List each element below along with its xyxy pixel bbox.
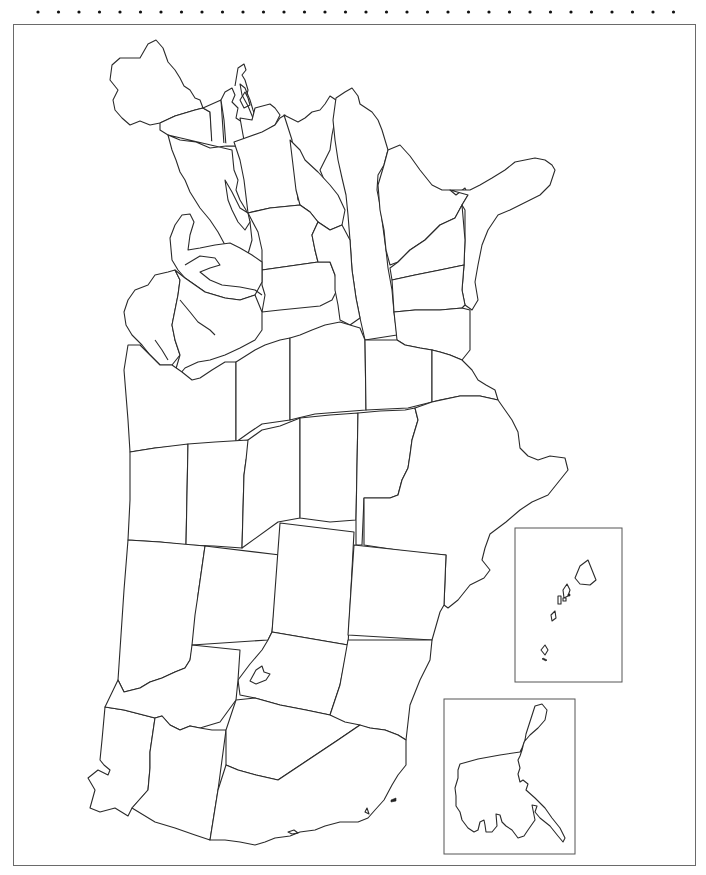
island-outline — [551, 611, 556, 621]
state-outline — [262, 262, 338, 312]
island-outline — [542, 658, 547, 661]
great-lakes-region — [284, 88, 555, 360]
state-outline — [221, 88, 245, 146]
state-outline — [432, 350, 498, 402]
state-outline — [290, 322, 366, 420]
hawaii-inset — [515, 528, 622, 682]
state-outline — [300, 413, 358, 522]
island-outline — [391, 798, 396, 802]
state-outline — [272, 523, 354, 645]
alaska-inset — [444, 699, 575, 854]
state-outline — [365, 340, 432, 410]
island-outline — [568, 594, 570, 596]
island-outline — [558, 596, 561, 604]
hawaii-inset-frame — [515, 528, 622, 682]
island-outline — [575, 560, 596, 585]
state-outline — [348, 545, 446, 640]
island-outline — [541, 645, 548, 655]
state-outline — [128, 444, 188, 545]
state-outline — [192, 546, 280, 645]
alaska-outline — [455, 704, 565, 842]
island-outline — [563, 598, 566, 601]
state-outline — [450, 158, 555, 310]
us-outline-map — [0, 0, 706, 875]
